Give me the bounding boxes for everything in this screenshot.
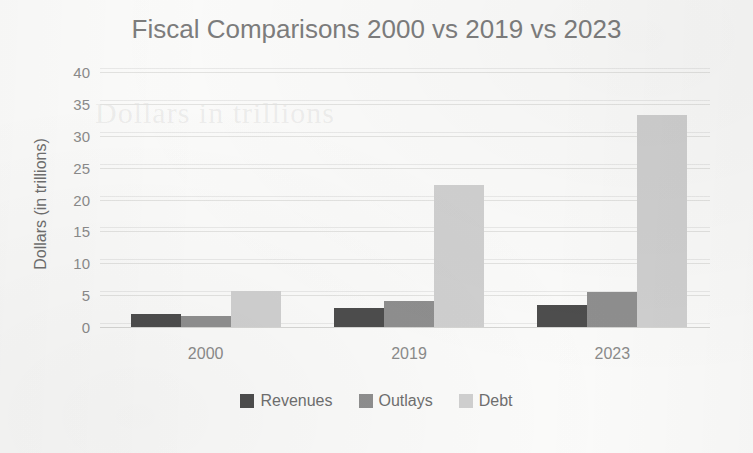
bar-revenues-2019[interactable] xyxy=(334,308,384,327)
bar-debt-2023[interactable] xyxy=(637,115,687,327)
y-axis-tick-label: 30 xyxy=(56,127,90,144)
bar-revenues-2000[interactable] xyxy=(131,314,181,327)
legend-item-debt[interactable]: Debt xyxy=(459,392,513,410)
legend-label: Outlays xyxy=(379,392,433,410)
y-axis-tick-label: 15 xyxy=(56,223,90,240)
legend-label: Debt xyxy=(479,392,513,410)
bar-outlays-2019[interactable] xyxy=(384,301,434,327)
bar-revenues-2023[interactable] xyxy=(537,305,587,327)
bar-debt-2019[interactable] xyxy=(434,185,484,327)
y-axis-tick-label: 10 xyxy=(56,255,90,272)
legend-swatch-icon xyxy=(240,394,254,408)
y-axis-tick-label: 0 xyxy=(56,319,90,336)
y-axis-tick-label: 20 xyxy=(56,191,90,208)
bar-outlays-2023[interactable] xyxy=(587,292,637,327)
legend-item-outlays[interactable]: Outlays xyxy=(359,392,433,410)
legend-swatch-icon xyxy=(359,394,373,408)
bar-group xyxy=(334,72,484,327)
legend-item-revenues[interactable]: Revenues xyxy=(240,392,332,410)
y-axis-tick-label: 25 xyxy=(56,159,90,176)
y-axis-tick-label: 40 xyxy=(56,64,90,81)
bar-chart-figure: Fiscal Comparisons 2000 vs 2019 vs 2023 … xyxy=(0,0,753,453)
x-axis-tick-label-2000: 2000 xyxy=(188,345,224,363)
bar-debt-2000[interactable] xyxy=(231,291,281,327)
chart-title: Fiscal Comparisons 2000 vs 2019 vs 2023 xyxy=(0,14,753,45)
y-axis-title: Dollars (in trillions) xyxy=(32,89,50,319)
bar-outlays-2000[interactable] xyxy=(181,316,231,327)
x-axis-tick-label-2019: 2019 xyxy=(391,345,427,363)
bar-group xyxy=(537,72,687,327)
x-axis-tick-label-2023: 2023 xyxy=(595,345,631,363)
bar-group xyxy=(131,72,281,327)
plot-area xyxy=(100,72,710,327)
legend-swatch-icon xyxy=(459,394,473,408)
y-axis-tick-label: 35 xyxy=(56,95,90,112)
chart-legend: RevenuesOutlaysDebt xyxy=(0,392,753,410)
legend-label: Revenues xyxy=(260,392,332,410)
y-axis-tick-label: 5 xyxy=(56,287,90,304)
x-axis-line xyxy=(100,327,710,328)
bars-layer xyxy=(100,72,710,327)
